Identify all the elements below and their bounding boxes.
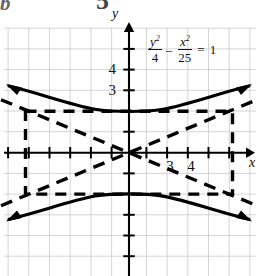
equation-fraction-x-over-25: x2 25: [176, 35, 193, 64]
y-tick-label-3: 3: [98, 82, 116, 99]
x-tick-label-4: 4: [184, 158, 198, 175]
equation-annotation: y2 4 – x2 25 = 1: [148, 35, 217, 64]
equation-exponent-y: 2: [156, 34, 160, 43]
y-axis-label: y: [112, 6, 118, 22]
equation-equals-sign: =: [196, 42, 205, 58]
equation-exponent-x: 2: [186, 34, 190, 43]
equation-numerator-x: x2: [178, 35, 192, 50]
y-axis-arrowhead: [124, 22, 134, 32]
equation-denominator-25: 25: [176, 50, 193, 64]
y-tick-label-4: 4: [98, 61, 116, 78]
x-tick-label-3: 3: [163, 158, 177, 175]
equation-fraction-y-over-4: y2 4: [148, 35, 162, 64]
equation-numerator-y: y2: [148, 35, 162, 50]
equation-right-hand-side: 1: [209, 42, 218, 58]
equation-minus-operator: –: [165, 42, 174, 58]
coordinate-plane-svg: [0, 0, 258, 276]
equation-denominator-4: 4: [150, 50, 161, 64]
page-fragment-letter-b: b: [0, 0, 26, 11]
axes: [4, 30, 246, 276]
hyperbola-graph-figure: b 5: [0, 0, 258, 276]
x-axis-label: x: [249, 155, 255, 171]
